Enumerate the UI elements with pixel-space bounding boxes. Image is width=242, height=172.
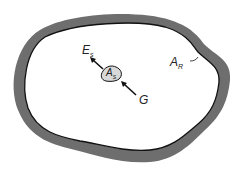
label-surface-area: As (106, 68, 116, 80)
label-irradiation: G (139, 94, 148, 106)
enclosure-diagram (0, 0, 242, 172)
enclosure-cavity (25, 23, 219, 150)
label-emission: Es (82, 44, 94, 58)
label-enclosure-area: AR (170, 56, 183, 70)
